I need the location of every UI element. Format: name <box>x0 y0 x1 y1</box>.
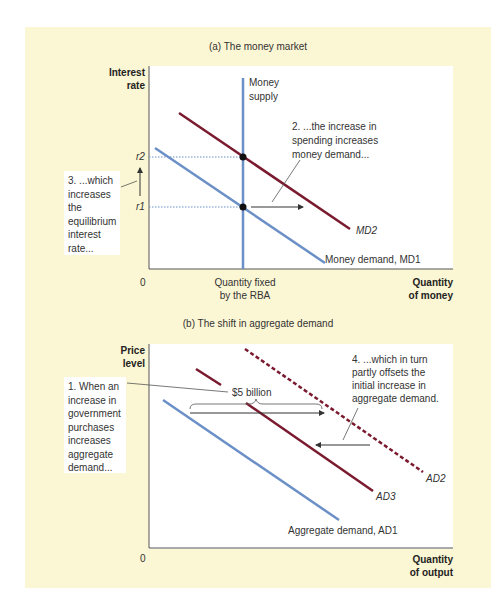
note-2-leader <box>272 160 300 202</box>
ad3-curve-upper <box>196 369 221 385</box>
equilibrium-point-1 <box>240 204 247 211</box>
panel-b-axes <box>149 344 453 548</box>
panel-a-axes <box>149 66 453 269</box>
curves-layer <box>0 0 503 616</box>
shift-brace <box>190 399 322 409</box>
note-4-leader <box>343 408 358 440</box>
ad2-curve <box>245 349 423 472</box>
md2-curve <box>179 113 350 229</box>
note-3-leader <box>121 181 137 187</box>
note-1-leader <box>127 383 228 392</box>
ad1-curve <box>163 400 339 520</box>
equilibrium-point-2 <box>240 154 247 161</box>
